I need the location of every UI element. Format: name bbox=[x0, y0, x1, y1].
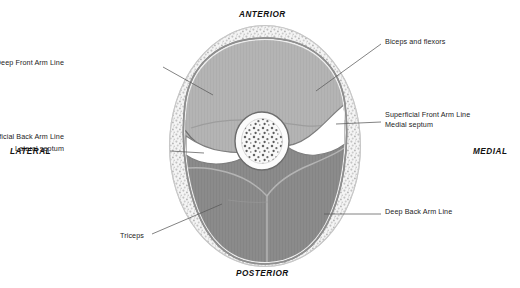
orientation-label-lateral: LATERAL bbox=[10, 147, 51, 156]
anatomy-figure: Deep Front Arm Line Superficial Back Arm… bbox=[0, 0, 520, 288]
orientation-label-anterior: ANTERIOR bbox=[239, 10, 286, 19]
orientation-label-medial: MEDIAL bbox=[473, 147, 507, 156]
callout-triceps: Triceps bbox=[120, 231, 144, 241]
callout-medial-septum: Medial septum bbox=[385, 120, 433, 130]
callout-deep-back-arm-line: Deep Back Arm Line bbox=[385, 207, 452, 217]
orientation-label-posterior: POSTERIOR bbox=[236, 269, 289, 278]
callout-biceps-and-flexors: Biceps and flexors bbox=[385, 37, 446, 47]
callout-deep-front-arm-line: Deep Front Arm Line bbox=[0, 58, 64, 68]
callout-superficial-back-arm-line: Superficial Back Arm Line bbox=[0, 132, 64, 142]
humerus bbox=[235, 112, 289, 170]
callout-superficial-front-arm-line: Superficial Front Arm Line bbox=[385, 110, 470, 120]
